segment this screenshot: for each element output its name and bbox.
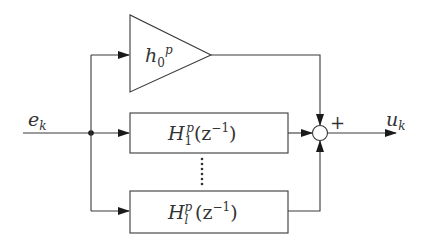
summing-junction xyxy=(313,126,328,141)
block-diagram: h0p H1p(z−1) Hlp(z−1) + ek uk xyxy=(0,0,426,251)
output-label: uk xyxy=(386,108,406,133)
filter-l-output-line xyxy=(288,141,320,211)
vertical-ellipsis xyxy=(201,158,204,186)
input-label: ek xyxy=(28,108,47,133)
filter-block-1-label: H1p(z−1) xyxy=(167,121,236,148)
sum-sign: + xyxy=(330,112,345,133)
gain-output-line xyxy=(211,55,320,125)
gain-label: h0p xyxy=(145,43,173,70)
filter-block-l-label: Hlp(z−1) xyxy=(167,200,238,227)
